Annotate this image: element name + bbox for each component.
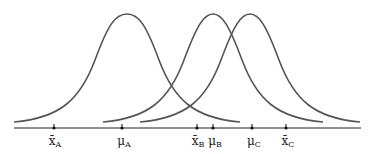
- curve-a: [14, 14, 240, 122]
- label-mu-c: μC: [247, 134, 261, 149]
- label-xbar-b: x̄B: [192, 134, 205, 149]
- label-mu-a: μA: [117, 134, 131, 149]
- curve-c: [140, 14, 360, 122]
- label-xbar-a: x̄A: [49, 134, 62, 149]
- curve-b: [103, 14, 323, 122]
- label-xbar-c: x̄C: [282, 134, 295, 149]
- tick-marks: [52, 124, 287, 130]
- label-mu-b: μB: [208, 134, 222, 149]
- distribution-diagram: [0, 0, 371, 154]
